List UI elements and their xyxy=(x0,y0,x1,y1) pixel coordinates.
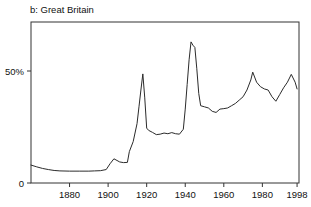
x-axis-ticks: 1880190019201940196019801998 xyxy=(59,183,308,200)
x-tick-label: 1880 xyxy=(59,189,80,200)
line-chart-plot: 050% 1880190019201940196019801998 xyxy=(0,0,311,207)
x-tick-label: 1980 xyxy=(252,189,273,200)
x-tick-label: 1920 xyxy=(136,189,157,200)
plot-frame xyxy=(31,22,299,183)
x-tick-label: 1940 xyxy=(175,189,196,200)
series-line-great-britain xyxy=(31,42,297,171)
y-tick-label: 50% xyxy=(5,66,25,77)
x-tick-label: 1900 xyxy=(98,189,119,200)
y-tick-label: 0 xyxy=(19,178,24,189)
axes-box xyxy=(31,22,299,183)
y-axis-ticks: 050% xyxy=(5,66,31,189)
chart-figure: b: Great Britain 050% 188019001920194019… xyxy=(0,0,311,207)
x-tick-label: 1998 xyxy=(287,189,308,200)
x-tick-label: 1960 xyxy=(213,189,234,200)
